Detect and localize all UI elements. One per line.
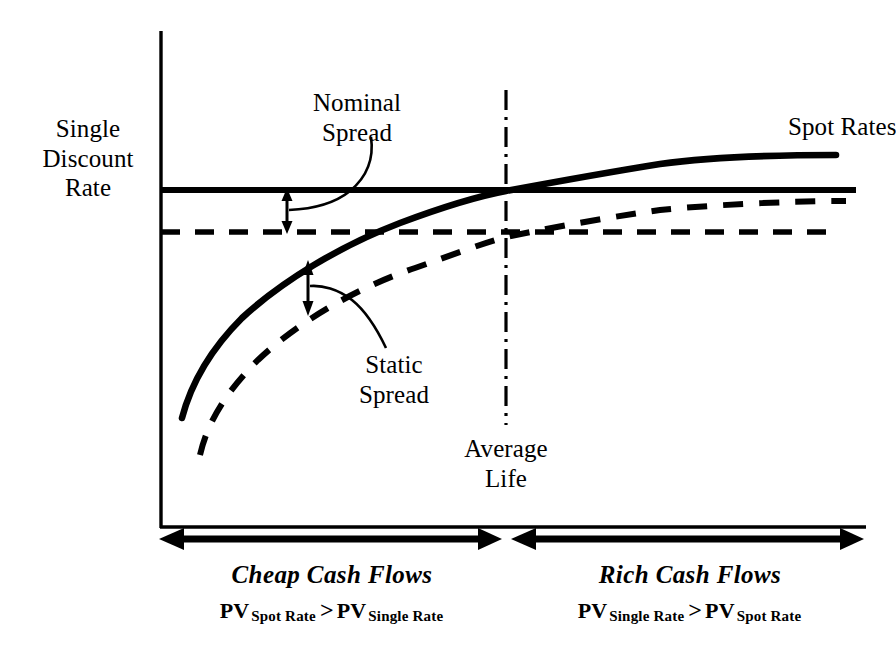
cheap-cash-flows-arrow [159,528,502,550]
cheap-cash-flows-caption: Cheap Cash Flows [232,560,433,590]
right-formula-operator: > [685,597,705,623]
spot-rates-curve [182,155,836,418]
left-formula-lhs: PV [220,598,250,623]
rich-cash-flows-formula: PVSingle Rate>PVSpot Rate [578,596,803,624]
left-formula-lhs-subscript: Spot Rate [249,608,317,624]
rich-cash-flows-arrow [511,528,864,550]
nominal-spread-label-line-2: Spread [313,118,401,148]
y-axis-label: Single Discount Rate [42,114,133,203]
average-life-label-line-1: Average [464,434,548,464]
spread-diagram-figure: Single Discount Rate Spot Rates Nominal … [0,0,896,652]
right-formula-rhs: PV [705,598,735,623]
static-spread-label-line-1: Static [359,350,429,380]
nominal-spread-label: Nominal Spread [313,88,401,147]
y-axis-label-line-1: Single [42,114,133,144]
static-spread-label-line-2: Spread [359,380,429,410]
left-formula-rhs-subscript: Single Rate [366,608,444,624]
nominal-spread-leader-line [289,137,372,210]
static-spread-curve [200,201,846,455]
left-formula-operator: > [317,597,337,623]
average-life-label-line-2: Life [464,464,548,494]
cheap-cash-flows-formula: PVSpot Rate>PVSingle Rate [220,596,445,624]
y-axis-label-line-3: Rate [42,173,133,203]
nominal-spread-label-line-1: Nominal [313,88,401,118]
right-formula-lhs-subscript: Single Rate [607,608,685,624]
left-formula-rhs: PV [337,598,367,623]
chart-canvas [0,0,896,652]
rich-cash-flows-caption: Rich Cash Flows [599,560,781,590]
average-life-label: Average Life [464,434,548,493]
right-formula-rhs-subscript: Spot Rate [735,608,803,624]
y-axis-label-line-2: Discount [42,144,133,174]
right-formula-lhs: PV [578,598,608,623]
spot-rates-label: Spot Rates [788,112,896,142]
static-spread-label: Static Spread [359,350,429,409]
